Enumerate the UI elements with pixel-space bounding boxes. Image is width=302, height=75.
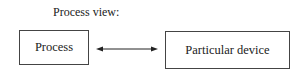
process-node: Process (19, 30, 89, 65)
device-node-label: Particular device (185, 43, 269, 58)
process-node-label: Process (35, 40, 73, 55)
device-node: Particular device (165, 31, 290, 69)
diagram-title: Process view: (53, 5, 119, 19)
bidirectional-arrow-icon (96, 44, 158, 54)
